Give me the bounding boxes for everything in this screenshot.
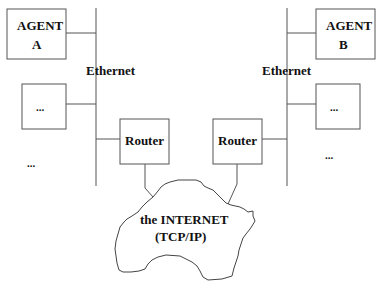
left-ethernet-label: Ethernet bbox=[86, 63, 136, 78]
left-host-placeholder-label: ... bbox=[36, 101, 45, 113]
agent-b-label-line2: B bbox=[339, 37, 348, 52]
internet-label-line2: (TCP/IP) bbox=[155, 229, 206, 244]
right-router-internet-link bbox=[228, 164, 237, 204]
agent-b-label-line1: AGENT bbox=[326, 18, 373, 33]
agent-a-label-line1: AGENT bbox=[17, 18, 64, 33]
left-more-hosts-label: ... bbox=[27, 157, 36, 169]
right-host-placeholder-label: ... bbox=[330, 101, 339, 113]
agent-a-label-line2: A bbox=[32, 37, 42, 52]
right-ethernet-label: Ethernet bbox=[262, 63, 312, 78]
right-router-label: Router bbox=[218, 133, 257, 148]
network-diagram: AGENT A Ethernet ... Router ... AGENT B … bbox=[0, 0, 376, 285]
left-router-internet-link bbox=[145, 164, 153, 197]
internet-label-line1: the INTERNET bbox=[140, 212, 229, 227]
right-more-hosts-label: ... bbox=[325, 149, 334, 161]
left-router-label: Router bbox=[125, 133, 164, 148]
